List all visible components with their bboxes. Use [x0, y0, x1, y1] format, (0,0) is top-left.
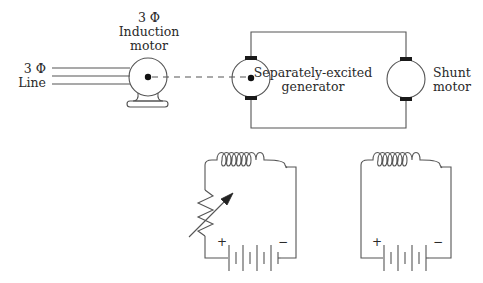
right-battery-minus-label: −	[433, 235, 443, 249]
right-battery-plus-label: +	[372, 235, 382, 249]
generator-label: Separately-excited generator	[254, 66, 372, 94]
field-coil-icon	[361, 153, 442, 172]
generator-field-battery-icon	[229, 245, 281, 271]
line-label-text: Line	[10, 76, 46, 90]
shunt-motor-label-line2: motor	[433, 80, 471, 94]
line-label: 3 Φ Line	[10, 62, 46, 90]
motor-brush-bottom-icon	[400, 97, 412, 101]
schematic-canvas	[0, 0, 483, 283]
left-battery-minus-label: −	[278, 235, 288, 249]
motor-field-battery-icon	[384, 245, 429, 271]
induction-motor-shaft-dot	[145, 74, 151, 80]
generator-label-line2: generator	[254, 80, 372, 94]
three-phase-lines	[52, 68, 130, 84]
generator-brush-bottom-icon	[245, 96, 257, 100]
induction-motor-label: 3 Φ Induction motor	[119, 11, 180, 53]
shunt-motor-label: Shunt motor	[433, 66, 471, 94]
induction-motor-label-phase: 3 Φ	[119, 11, 180, 25]
induction-motor-label-name: motor	[119, 39, 180, 53]
field-coil-icon	[205, 153, 287, 171]
shunt-motor-icon	[387, 60, 425, 98]
generator-brush-top-icon	[245, 56, 257, 60]
line-label-phase: 3 Φ	[10, 62, 46, 76]
induction-motor-icon	[127, 58, 168, 107]
rheostat-icon	[198, 190, 213, 236]
generator-label-line1: Separately-excited	[254, 66, 372, 80]
induction-motor-label-type: Induction	[119, 25, 180, 39]
shunt-motor-label-line1: Shunt	[433, 66, 471, 80]
motor-brush-top-icon	[400, 57, 412, 61]
left-battery-plus-label: +	[217, 235, 227, 249]
